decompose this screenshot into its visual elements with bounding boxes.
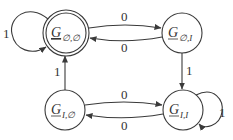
node-label: G	[51, 102, 61, 117]
edge-empty-empty-to-empty-I: 0	[89, 9, 161, 28]
edge-label: 0	[121, 9, 128, 24]
edge-label: 1	[219, 105, 226, 120]
node-label: G	[169, 102, 179, 117]
node-g-empty-I[interactable]: G ∅,I	[162, 13, 202, 53]
edge-self-loop-empty-empty: 1	[3, 12, 48, 51]
edge-empty-I-to-empty-empty: 0	[90, 37, 162, 55]
edge-label: 0	[121, 118, 128, 133]
edge-label: 1	[54, 64, 61, 79]
edge-label: 0	[121, 40, 128, 55]
edge-I-empty-to-I-I: 0	[85, 87, 162, 105]
node-subscript: I,I	[179, 110, 189, 120]
node-g-I-I[interactable]: G I,I	[163, 90, 203, 130]
edge-label: 1	[3, 26, 10, 41]
edge-label: 1	[186, 63, 193, 78]
node-g-empty-empty[interactable]: G ∅,∅	[43, 10, 89, 56]
edge-I-I-to-I-empty: 0	[86, 114, 163, 133]
state-diagram: 1 0 0 1 1 0 0 1 G ∅,∅	[0, 0, 233, 140]
node-label: G	[168, 25, 178, 40]
node-subscript: ∅,∅	[62, 33, 81, 43]
node-g-I-empty[interactable]: G I,∅	[45, 90, 85, 130]
edge-empty-I-to-I-I: 1	[182, 53, 193, 89]
edge-label: 0	[121, 87, 128, 102]
node-subscript: I,∅	[61, 110, 76, 120]
node-subscript: ∅,I	[179, 33, 193, 43]
edge-I-empty-to-empty-empty: 1	[54, 56, 65, 90]
node-label: G	[51, 25, 61, 40]
